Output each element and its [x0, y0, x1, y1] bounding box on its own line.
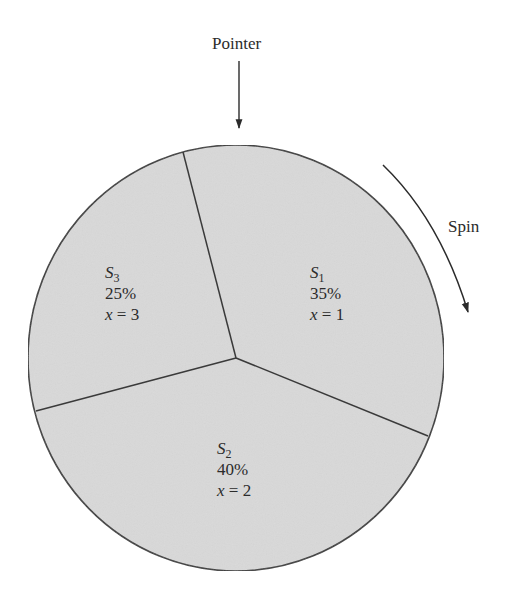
sector-s3-value: x = 3 [105, 304, 139, 325]
sector-s3-label: S3 25% x = 3 [105, 262, 139, 325]
sector-s2-percent: 40% [217, 459, 251, 480]
sector-s1-label: S1 35% x = 1 [310, 262, 344, 325]
sector-s3-name: S3 [105, 262, 139, 283]
spinner-diagram [0, 0, 513, 604]
sector-s1-value: x = 1 [310, 304, 344, 325]
sector-s3-percent: 25% [105, 283, 139, 304]
sector-s1-percent: 35% [310, 283, 344, 304]
spin-label: Spin [448, 217, 479, 237]
sector-s2-name: S2 [217, 438, 251, 459]
sector-s1-name: S1 [310, 262, 344, 283]
sector-s2-value: x = 2 [217, 480, 251, 501]
pointer-label: Pointer [212, 34, 261, 54]
sector-s2-label: S2 40% x = 2 [217, 438, 251, 501]
